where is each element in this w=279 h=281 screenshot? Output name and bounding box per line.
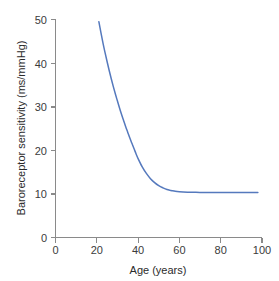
baroreceptor-sensitivity-line-chart: 50 40 30 20 10 0 0 20 40 60 80 100 Age (… bbox=[0, 0, 279, 281]
y-tick-label-40: 40 bbox=[35, 58, 47, 70]
x-axis-title: Age (years) bbox=[130, 264, 187, 276]
chart-figure: 50 40 30 20 10 0 0 20 40 60 80 100 Age (… bbox=[0, 0, 279, 281]
x-tick-label-100: 100 bbox=[253, 244, 271, 256]
y-axis-title: Baroreceptor sensitivity (ms/mmHg) bbox=[15, 41, 27, 216]
y-tick-label-20: 20 bbox=[35, 145, 47, 157]
x-tick-label-80: 80 bbox=[215, 244, 227, 256]
y-tick-label-30: 30 bbox=[35, 101, 47, 113]
y-tick-label-50: 50 bbox=[35, 14, 47, 26]
x-tick-label-40: 40 bbox=[132, 244, 144, 256]
x-tick-label-20: 20 bbox=[91, 244, 103, 256]
y-tick-label-10: 10 bbox=[35, 188, 47, 200]
x-tick-label-60: 60 bbox=[173, 244, 185, 256]
x-tick-label-0: 0 bbox=[52, 244, 58, 256]
y-tick-label-0: 0 bbox=[41, 232, 47, 244]
